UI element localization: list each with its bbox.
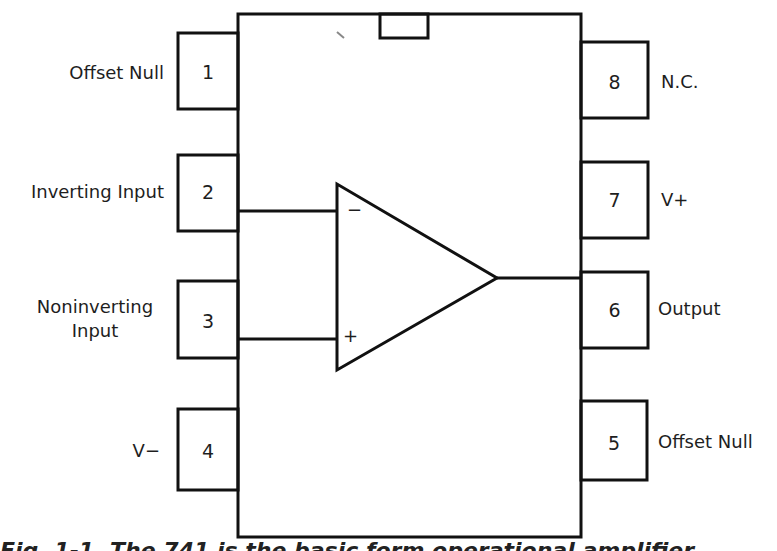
pin-5-number: 5 — [581, 432, 647, 454]
stray-mark — [337, 32, 344, 38]
pin-4-number: 4 — [178, 440, 238, 462]
pin-3-number: 3 — [178, 310, 238, 332]
pin-6-label: Output — [658, 298, 721, 319]
pin-2-number: 2 — [178, 181, 238, 203]
pin-1-number: 1 — [178, 61, 238, 83]
orientation-notch — [380, 14, 428, 38]
pin-8-label: N.C. — [661, 71, 698, 92]
pin-5-label: Offset Null — [658, 431, 753, 452]
pin-7-label: V+ — [661, 189, 688, 210]
pin-4-label: V− — [0, 440, 160, 461]
inverting-sign: − — [347, 201, 362, 219]
ic-body — [238, 14, 581, 537]
pin-6-number: 6 — [581, 299, 648, 321]
pin-2-label: Inverting Input — [0, 181, 164, 202]
figure-caption: Fig. 1-1. The 741 is the basic form oper… — [0, 537, 777, 551]
pin-3-label-line1: Noninverting — [20, 296, 170, 317]
pin-1-label: Offset Null — [0, 62, 164, 83]
noninverting-sign: + — [343, 327, 358, 345]
pin-3-label-line2: Input — [20, 320, 170, 341]
pin-8-number: 8 — [581, 71, 648, 93]
pin-7-number: 7 — [581, 189, 648, 211]
